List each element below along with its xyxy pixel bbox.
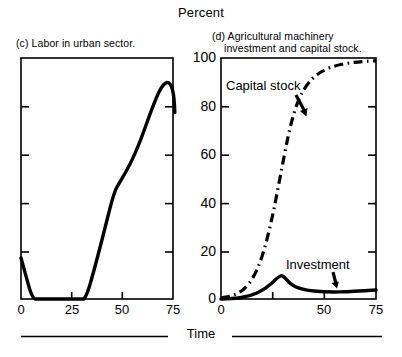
panel-c-xtick-25: 25	[57, 303, 87, 318]
annotation-investment: Investment	[286, 258, 350, 273]
panel-d-right-ticks	[368, 107, 376, 252]
panel-d-left-ticks	[221, 107, 229, 252]
ytick-label-100: 100	[178, 50, 216, 66]
panel-c-xtick-50: 50	[107, 303, 137, 318]
annotation-capital-stock: Capital stock	[226, 79, 300, 94]
panel-c-xtick-75: 75	[158, 303, 188, 318]
panel-d-xtick-0: 0	[206, 303, 236, 318]
panel-d-xtick-50: 50	[309, 303, 339, 318]
series-labor-in-urban-sector	[21, 82, 175, 299]
ytick-label-80: 80	[178, 99, 216, 115]
panel-c-right-ticks	[165, 107, 173, 252]
ytick-label-20: 20	[178, 244, 216, 260]
ytick-label-40: 40	[178, 196, 216, 212]
panel-c-left-ticks	[21, 107, 29, 252]
panel-d-xtick-75: 75	[361, 303, 391, 318]
panel-c-xtick-0: 0	[6, 303, 36, 318]
panel-d-bottom-ticks	[273, 292, 325, 299]
bottom-axis-title: Time	[0, 327, 402, 342]
figure-panel-group: Percent (c) Labor in urban sector. (d) A…	[0, 0, 402, 357]
investment-arrow-icon	[332, 272, 339, 289]
ytick-label-60: 60	[178, 147, 216, 163]
